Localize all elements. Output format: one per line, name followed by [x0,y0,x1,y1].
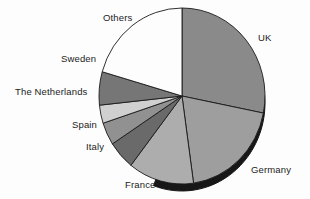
pie-slices [99,8,265,184]
slice-label-italy: Italy [86,141,104,152]
slice-label-netherlands: The Netherlands [15,86,87,97]
pie-slice-uk[interactable] [182,8,265,113]
slice-label-sweden: Sweden [61,53,96,64]
slice-label-spain: Spain [72,119,97,130]
slice-label-germany: Germany [251,164,291,175]
slice-label-uk: UK [258,32,272,43]
slice-label-france: France [125,179,155,190]
pie-chart: UK Germany France Italy Spain The Nether… [0,0,310,199]
slice-label-others: Others [103,12,132,23]
